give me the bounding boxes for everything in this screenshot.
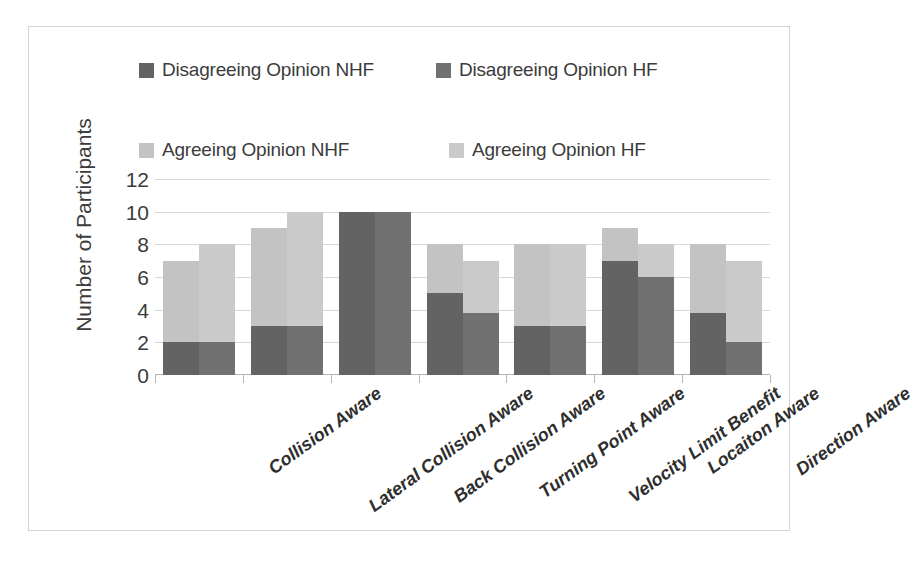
chart-legend: Disagreeing Opinion NHFDisagreeing Opini…: [139, 59, 739, 143]
bar-segment-agreeing: [163, 261, 199, 343]
bar-segment-disagreeing: [550, 326, 586, 375]
x-axis-tick: [506, 375, 507, 383]
bar-group: [331, 179, 419, 375]
bar-group: [155, 179, 243, 375]
bar-segment-disagreeing: [463, 313, 499, 375]
legend-item[interactable]: Disagreeing Opinion HF: [436, 59, 657, 81]
y-axis-tick-label: 12: [126, 169, 149, 190]
legend-swatch-icon: [139, 63, 154, 78]
bar-group: [243, 179, 331, 375]
bar-segment-agreeing: [514, 244, 550, 326]
bar-segment-disagreeing: [638, 277, 674, 375]
bar-hf: [375, 179, 411, 375]
bar-nhf: [690, 179, 726, 375]
bar-hf: [463, 179, 499, 375]
legend-label: Disagreeing Opinion NHF: [162, 59, 374, 81]
bar-groups: [155, 179, 770, 375]
x-axis-tick: [155, 375, 156, 383]
bar-segment-disagreeing: [602, 261, 638, 375]
bar-hf: [638, 179, 674, 375]
y-axis-tick-label: 0: [137, 365, 149, 386]
bar-nhf: [251, 179, 287, 375]
bar-group: [594, 179, 682, 375]
bar-segment-agreeing: [726, 261, 762, 343]
bar-hf: [287, 179, 323, 375]
bar-segment-disagreeing: [427, 293, 463, 375]
bar-nhf: [602, 179, 638, 375]
bar-group: [682, 179, 770, 375]
legend-swatch-icon: [139, 143, 154, 158]
bar-segment-agreeing: [427, 244, 463, 293]
x-axis-tick: [243, 375, 244, 383]
bar-segment-disagreeing: [199, 342, 235, 375]
bar-nhf: [427, 179, 463, 375]
legend-item[interactable]: Agreeing Opinion NHF: [139, 139, 349, 161]
y-axis-tick-label: 2: [137, 332, 149, 353]
bar-segment-disagreeing: [287, 326, 323, 375]
x-axis-tick: [682, 375, 683, 383]
legend-item[interactable]: Agreeing Opinion HF: [449, 139, 646, 161]
x-axis-tick: [331, 375, 332, 383]
legend-swatch-icon: [449, 143, 464, 158]
bar-group: [419, 179, 507, 375]
y-axis-tick-label: 8: [137, 234, 149, 255]
bar-nhf: [163, 179, 199, 375]
legend-label: Agreeing Opinion HF: [472, 139, 646, 161]
y-axis-tick-labels: 024681012: [117, 179, 149, 375]
bar-hf: [726, 179, 762, 375]
bar-segment-disagreeing: [375, 212, 411, 375]
legend-swatch-icon: [436, 63, 451, 78]
y-axis-tick-label: 10: [126, 201, 149, 222]
bar-segment-disagreeing: [339, 212, 375, 375]
bar-segment-agreeing: [638, 244, 674, 277]
y-axis-tick-label: 6: [137, 267, 149, 288]
y-axis-title: Number of Participants: [72, 110, 96, 340]
bar-group: [506, 179, 594, 375]
legend-label: Disagreeing Opinion HF: [459, 59, 657, 81]
x-axis-category-labels: Collision AwareLateral Collision AwareBa…: [155, 383, 770, 533]
bar-hf: [550, 179, 586, 375]
bar-segment-agreeing: [463, 261, 499, 313]
bar-segment-disagreeing: [690, 313, 726, 375]
bar-segment-disagreeing: [163, 342, 199, 375]
bar-segment-agreeing: [602, 228, 638, 261]
bar-segment-disagreeing: [251, 326, 287, 375]
x-axis-ticks: [155, 375, 770, 383]
legend-row: Agreeing Opinion NHFAgreeing Opinion HF: [139, 99, 739, 139]
bar-segment-agreeing: [199, 244, 235, 342]
x-axis-tick: [770, 375, 771, 383]
legend-row: Disagreeing Opinion NHFDisagreeing Opini…: [139, 59, 739, 99]
legend-item[interactable]: Disagreeing Opinion NHF: [139, 59, 374, 81]
bar-segment-agreeing: [690, 244, 726, 313]
bar-segment-agreeing: [287, 212, 323, 326]
bar-segment-disagreeing: [726, 342, 762, 375]
bar-segment-agreeing: [550, 244, 586, 326]
x-axis-tick: [419, 375, 420, 383]
x-axis-category-label: Collision Aware: [265, 383, 386, 479]
bar-segment-agreeing: [251, 228, 287, 326]
bar-nhf: [514, 179, 550, 375]
legend-label: Agreeing Opinion NHF: [162, 139, 349, 161]
bar-segment-disagreeing: [514, 326, 550, 375]
x-axis-tick: [594, 375, 595, 383]
chart-frame: Disagreeing Opinion NHFDisagreeing Opini…: [28, 26, 790, 531]
plot-area: [155, 179, 770, 375]
y-axis-tick-label: 4: [137, 299, 149, 320]
bar-hf: [199, 179, 235, 375]
bar-nhf: [339, 179, 375, 375]
